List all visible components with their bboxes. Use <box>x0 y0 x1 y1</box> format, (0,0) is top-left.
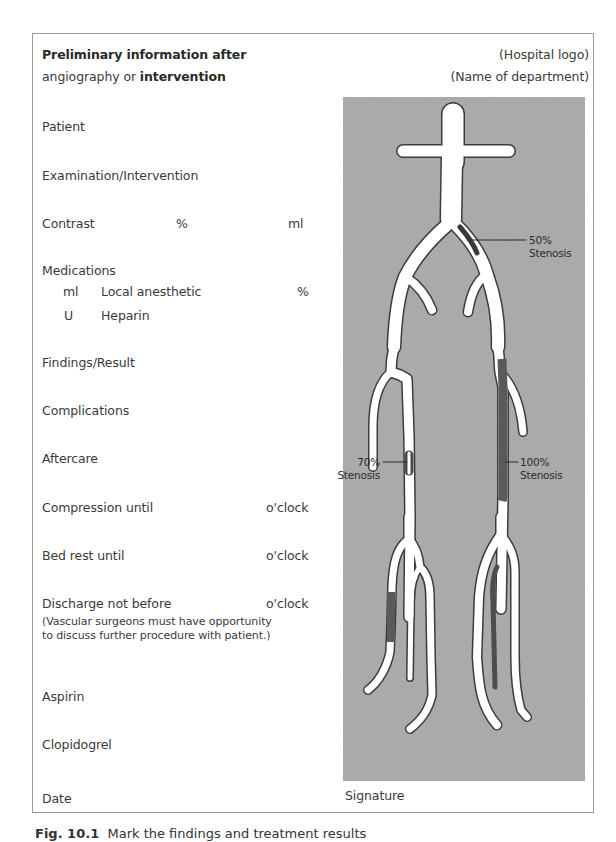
annotation-50-stenosis: 50% Stenosis <box>529 234 572 259</box>
findings-field-label: Findings/Result <box>42 355 135 370</box>
bed-rest-unit: o'clock <box>266 548 309 563</box>
contrast-field-label: Contrast <box>42 216 95 231</box>
form-title-prefix: angiography or <box>42 69 140 84</box>
figure-caption-text: Mark the findings and treatment results <box>107 826 366 841</box>
hospital-logo-placeholder: (Hospital logo) <box>499 47 589 62</box>
discharge-unit: o'clock <box>266 596 309 611</box>
annotation-100-stenosis: 100% Stenosis <box>520 456 563 481</box>
local-anesthetic-unit: ml <box>63 284 78 299</box>
local-anesthetic-percent: % <box>297 284 309 299</box>
annotation-100-label: Stenosis <box>520 469 563 482</box>
annotation-50-pct: 50% <box>529 234 572 247</box>
annotation-70-stenosis: 70% Stenosis <box>335 456 380 481</box>
form-title-line1: Preliminary information after <box>42 47 246 62</box>
contrast-ml-unit: ml <box>288 216 303 231</box>
annotation-70-label: Stenosis <box>335 469 380 482</box>
annotation-100-pct: 100% <box>520 456 563 469</box>
aspirin-field-label: Aspirin <box>42 689 84 704</box>
vessel-diagram-panel[interactable]: 50% Stenosis 70% Stenosis 100% Stenosis <box>343 97 585 781</box>
local-anesthetic-label: Local anesthetic <box>101 284 201 299</box>
heparin-label: Heparin <box>101 308 150 323</box>
compression-unit: o'clock <box>266 500 309 515</box>
date-field-label: Date <box>42 791 71 806</box>
lesion-100-occlusion <box>502 359 503 501</box>
complications-field-label: Complications <box>42 403 129 418</box>
signature-field-label: Signature <box>345 788 404 803</box>
arterial-tree-diagram <box>343 97 585 781</box>
medications-label: Medications <box>42 263 116 278</box>
clopidogrel-field-label: Clopidogrel <box>42 737 112 752</box>
patient-field-label: Patient <box>42 119 85 134</box>
aftercare-field-label: Aftercare <box>42 451 98 466</box>
examination-field-label: Examination/Intervention <box>42 168 198 183</box>
department-name-placeholder: (Name of department) <box>450 69 589 84</box>
figure-caption: Fig. 10.1 Mark the findings and treatmen… <box>35 826 366 841</box>
form-title-bold: intervention <box>140 69 226 84</box>
contrast-percent-unit: % <box>176 216 188 231</box>
compression-field-label: Compression until <box>42 500 153 515</box>
discharge-note: (Vascular surgeons must have opportunity… <box>42 615 272 642</box>
bed-rest-field-label: Bed rest until <box>42 548 124 563</box>
annotation-50-label: Stenosis <box>529 247 572 260</box>
annotation-70-pct: 70% <box>335 456 380 469</box>
heparin-unit: U <box>64 308 73 323</box>
discharge-field-label: Discharge not before <box>42 596 171 611</box>
figure-label: Fig. 10.1 <box>35 826 99 841</box>
form-title-line2: angiography or intervention <box>42 69 226 84</box>
